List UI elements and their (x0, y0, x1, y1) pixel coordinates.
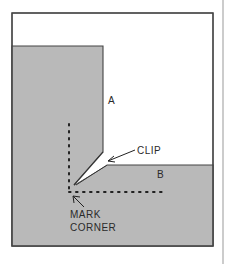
corner-diagram: A B CLIP MARK CORNER (0, 0, 226, 264)
label-corner: CORNER (70, 222, 116, 233)
label-mark: MARK (70, 209, 101, 220)
label-clip: CLIP (137, 145, 161, 156)
label-b: B (157, 169, 164, 180)
label-a: A (108, 95, 115, 106)
